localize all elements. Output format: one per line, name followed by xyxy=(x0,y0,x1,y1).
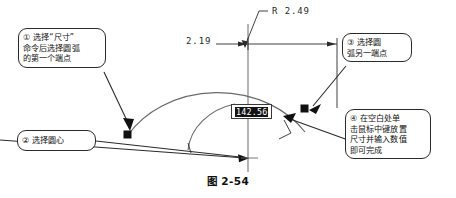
value-box-hook-leader xyxy=(279,120,291,139)
dimension-value-input[interactable]: 142.56 xyxy=(231,104,272,119)
linear-dim-arrow-right xyxy=(327,42,336,47)
radius-dimension-label: R 2.49 xyxy=(272,6,310,16)
figure-caption: 图 2-54 xyxy=(0,173,456,188)
angle-indicator-arc xyxy=(188,104,235,150)
arc-endpoint-marker-left xyxy=(124,131,132,139)
linear-dimension-label: 2.19 xyxy=(186,36,211,46)
figure-container: R 2.49 2.19 142.56 ① 选择“尺寸” 命令后选择圆弧 的第一个… xyxy=(0,0,456,198)
main-arc xyxy=(128,93,305,135)
callout-step-4: ④ 在空白处单 击鼠标中键放置 尺寸并输入数值 即可完成 xyxy=(345,109,431,159)
callout-step-1: ① 选择“尺寸” 命令后选择圆弧 的第一个端点 xyxy=(18,28,106,68)
callout-4-leader xyxy=(290,119,348,140)
callout-3-leader xyxy=(313,66,346,106)
dimension-value-text[interactable]: 142.56 xyxy=(235,107,268,117)
callout-step-3: ③ 选择圆 弧另一端点 xyxy=(342,33,412,62)
callout-step-2: ② 选择圆心 xyxy=(17,130,96,151)
callout-1-leader xyxy=(104,72,129,125)
arc-endpoint-marker-right xyxy=(301,105,309,113)
callout-3-arrowhead xyxy=(309,104,321,114)
